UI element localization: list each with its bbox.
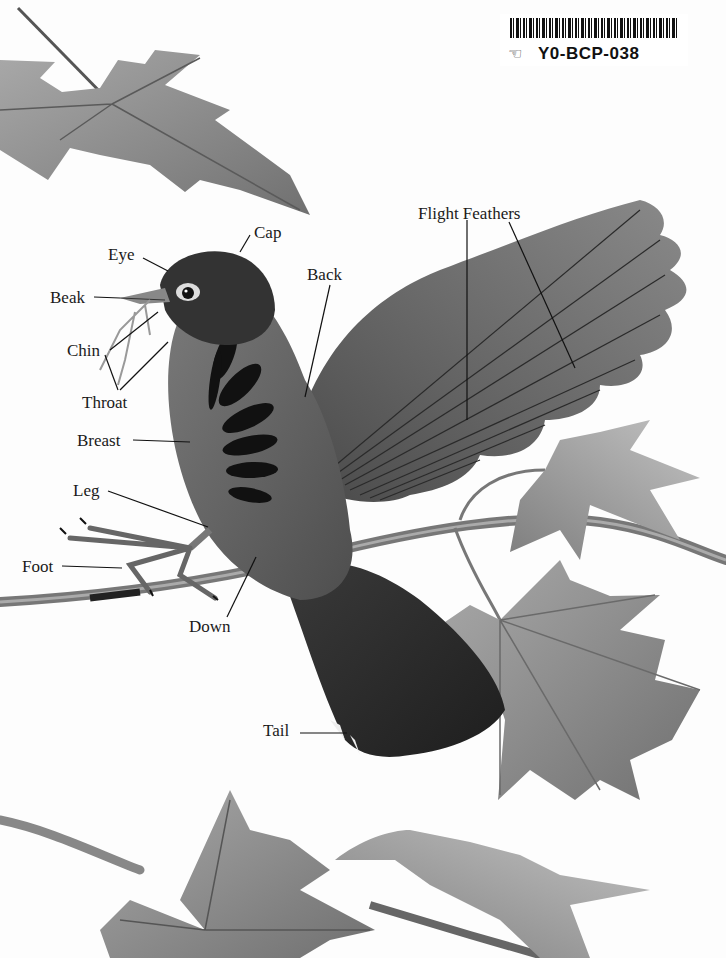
label-eye: Eye	[108, 246, 134, 263]
robin-anatomy-diagram: Cap Eye Beak Chin Throat Breast Leg Foot…	[0, 0, 726, 958]
label-tail: Tail	[263, 722, 289, 739]
barcode	[510, 18, 678, 38]
throat-line-1	[105, 355, 118, 390]
label-foot: Foot	[22, 558, 53, 575]
label-cap: Cap	[254, 224, 281, 241]
hand-icon: ☜	[508, 44, 522, 63]
label-beak: Beak	[50, 289, 85, 306]
eye-line	[143, 258, 168, 271]
label-breast: Breast	[77, 432, 120, 449]
catalog-barcode-sticker: ☜ Y0-BCP-038	[500, 14, 688, 66]
catalog-code: Y0-BCP-038	[538, 44, 639, 64]
label-back: Back	[307, 266, 342, 283]
cap-line	[240, 235, 250, 252]
beak-line	[94, 297, 120, 298]
label-leg: Leg	[73, 482, 99, 499]
label-down: Down	[189, 618, 231, 635]
label-flight-feathers: Flight Feathers	[418, 205, 520, 222]
label-throat: Throat	[82, 394, 127, 411]
right-leaves	[445, 420, 700, 800]
top-left-leaves	[0, 8, 310, 215]
foot-line	[62, 566, 122, 568]
label-chin: Chin	[67, 342, 100, 359]
illustration	[0, 0, 726, 958]
bottom-leaves	[0, 790, 650, 958]
